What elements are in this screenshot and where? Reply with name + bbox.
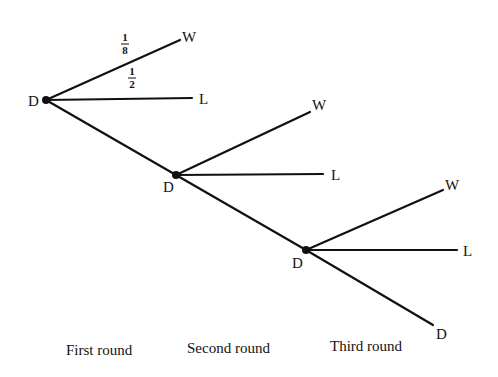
leaf-label-w2: W bbox=[312, 97, 327, 113]
round-label-third: Third round bbox=[330, 338, 403, 354]
branch-d1-l bbox=[46, 98, 192, 100]
leaf-label-w1: W bbox=[182, 29, 197, 45]
round-label-first: First round bbox=[66, 342, 133, 358]
node-label-d3: D bbox=[292, 255, 303, 271]
branch-d2-d bbox=[176, 175, 306, 250]
svg-text:8: 8 bbox=[122, 44, 128, 56]
node-dot-d3 bbox=[302, 246, 310, 254]
probability-l1: 1 2 bbox=[128, 65, 136, 90]
branch-d3-w bbox=[306, 190, 443, 250]
probability-w1: 1 8 bbox=[121, 31, 129, 56]
branch-d1-w bbox=[46, 40, 180, 100]
leaf-label-l1: L bbox=[199, 91, 208, 107]
node-dot-d1 bbox=[42, 96, 50, 104]
svg-text:1: 1 bbox=[129, 65, 135, 77]
leaf-label-l3: L bbox=[463, 243, 472, 259]
leaf-label-w3: W bbox=[445, 177, 460, 193]
svg-text:2: 2 bbox=[129, 78, 135, 90]
branch-d2-w bbox=[176, 112, 310, 175]
leaf-label-d4: D bbox=[436, 326, 447, 342]
node-dot-d2 bbox=[172, 171, 180, 179]
svg-text:1: 1 bbox=[122, 31, 128, 43]
branch-d2-l bbox=[176, 174, 323, 175]
branch-d1-d bbox=[46, 100, 176, 175]
node-label-d1: D bbox=[28, 93, 39, 109]
leaf-label-l2: L bbox=[331, 167, 340, 183]
node-label-d2: D bbox=[163, 179, 174, 195]
branch-d3-d bbox=[306, 250, 433, 325]
probability-tree-diagram: D D D W L W L W L D 1 8 1 2 First round … bbox=[0, 0, 498, 377]
round-label-second: Second round bbox=[187, 340, 270, 356]
